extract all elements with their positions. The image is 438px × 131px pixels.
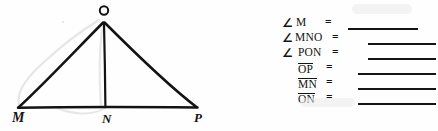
answer-term-label: M bbox=[296, 17, 306, 29]
answer-blank-field[interactable] bbox=[358, 88, 436, 90]
answer-term-label: ON bbox=[298, 93, 315, 106]
triangle-strokes bbox=[18, 23, 198, 108]
answer-row-segment-ON: ON = bbox=[276, 91, 438, 106]
angle-icon: ∠ bbox=[282, 17, 293, 29]
triangle-figure: M N P bbox=[0, 0, 220, 131]
answer-term-label: MN bbox=[298, 78, 317, 91]
answer-blank-field[interactable] bbox=[368, 58, 436, 60]
answer-term-label: MNO bbox=[295, 32, 322, 44]
equals-sign: = bbox=[326, 62, 333, 74]
vertex-O-circle bbox=[100, 6, 108, 14]
answer-row-angle-MNO: ∠ MNO = bbox=[276, 31, 438, 46]
answer-blank-field[interactable] bbox=[368, 43, 436, 45]
answer-blank-field[interactable] bbox=[358, 73, 436, 75]
answer-blank-field[interactable] bbox=[348, 28, 418, 30]
worksheet-page: M N P ∠ M = ∠ MNO = ∠ PON = OP = bbox=[0, 0, 438, 131]
answer-row-segment-OP: OP = bbox=[276, 61, 438, 76]
vertex-label-P: P bbox=[194, 111, 202, 124]
equals-sign: = bbox=[332, 32, 339, 44]
equals-sign: = bbox=[325, 17, 332, 29]
vertex-label-M: M bbox=[12, 111, 24, 125]
answer-row-angle-PON: ∠ PON = bbox=[276, 46, 438, 61]
vertex-label-N: N bbox=[102, 112, 111, 125]
answer-term-label: PON bbox=[298, 47, 322, 59]
angle-icon: ∠ bbox=[282, 32, 293, 44]
angle-icon: ∠ bbox=[282, 47, 293, 59]
answer-list: ∠ M = ∠ MNO = ∠ PON = OP = MN = bbox=[276, 8, 438, 118]
equals-sign: = bbox=[326, 77, 333, 89]
answer-term-label: OP bbox=[298, 63, 313, 76]
equals-sign: = bbox=[332, 47, 339, 59]
answer-blank-field[interactable] bbox=[358, 103, 436, 105]
answer-row-segment-MN: MN = bbox=[276, 76, 438, 91]
answer-row-angle-M: ∠ M = bbox=[276, 16, 438, 31]
equals-sign: = bbox=[326, 92, 333, 104]
